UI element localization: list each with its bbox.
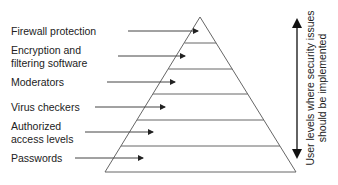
side-axis-line2: should be implemented <box>316 3 328 173</box>
label-authorized-line1: Authorized <box>11 120 73 133</box>
label-moderators: Moderators <box>11 76 64 89</box>
label-authorized-access: Authorized access levels <box>11 120 73 145</box>
label-authorized-line2: access levels <box>11 133 73 146</box>
pyramid-shape <box>105 17 296 172</box>
label-passwords: Passwords <box>11 152 62 165</box>
side-axis-label: User levels where security issues should… <box>304 3 328 173</box>
label-encryption-line2: filtering software <box>11 57 87 70</box>
label-encryption-filtering: Encryption and filtering software <box>11 44 87 69</box>
label-firewall-protection: Firewall protection <box>11 25 96 38</box>
side-axis-line1: User levels where security issues <box>304 3 316 173</box>
label-encryption-line1: Encryption and <box>11 44 87 57</box>
label-virus-checkers: Virus checkers <box>11 101 80 114</box>
